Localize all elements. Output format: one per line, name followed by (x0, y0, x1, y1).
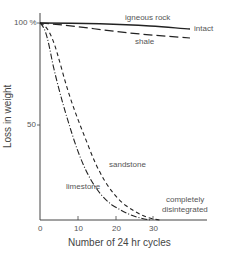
label-intact: intact (194, 25, 213, 33)
label-shale: shale (135, 38, 154, 46)
label-igneous-rock: igneous rock (125, 14, 170, 22)
x-tick-label-30: 30 (149, 225, 158, 233)
x-tick-label-0: 0 (38, 225, 42, 233)
x-tick-label-10: 10 (74, 225, 83, 233)
label-limestone: limestone (66, 183, 100, 191)
x-axis-label: Number of 24 hr cycles (68, 237, 171, 248)
label-completely: completely (166, 196, 204, 204)
y-tick-label-50: 50 (27, 121, 36, 129)
series-shale (40, 23, 190, 38)
label-disintegrated: disintegrated (162, 206, 208, 214)
series-igneous-rock (40, 23, 190, 29)
y-axis-label: Loss in weight (2, 85, 13, 148)
label-sandstone: sandstone (109, 161, 146, 169)
y-tick-label-100: 100 % (14, 19, 37, 27)
x-tick-label-20: 20 (112, 225, 121, 233)
